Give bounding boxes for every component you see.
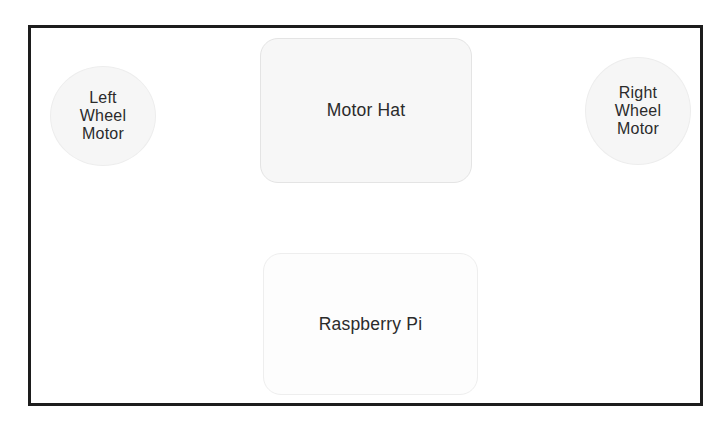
node-right-wheel-motor-label: Right Wheel Motor [615, 84, 661, 138]
node-left-wheel-motor-label: Left Wheel Motor [80, 89, 126, 143]
node-motor-hat: Motor Hat [260, 38, 472, 183]
node-raspberry-pi: Raspberry Pi [263, 253, 478, 395]
node-motor-hat-label: Motor Hat [327, 100, 406, 121]
node-left-wheel-motor: Left Wheel Motor [50, 66, 156, 166]
node-right-wheel-motor: Right Wheel Motor [585, 57, 691, 165]
diagram-canvas: Left Wheel Motor Motor Hat Right Wheel M… [0, 0, 721, 433]
node-raspberry-pi-label: Raspberry Pi [319, 314, 423, 335]
